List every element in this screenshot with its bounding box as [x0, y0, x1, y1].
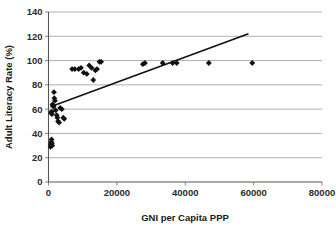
x-tick-label: 60000: [240, 187, 266, 198]
y-tick-label: 100: [27, 55, 43, 66]
x-tick-label: 40000: [172, 187, 198, 198]
y-tick-label: 20: [32, 152, 43, 163]
y-axis-title: Adult Literacy Rate (%): [3, 45, 14, 149]
x-axis-title: GNI per Capita PPP: [141, 212, 229, 223]
y-tick-label: 120: [27, 31, 43, 42]
scatter-chart: 020406080100120140 020000400006000080000…: [0, 0, 336, 227]
chart-canvas: 020406080100120140 020000400006000080000…: [0, 0, 336, 227]
x-tick-label: 20000: [104, 187, 130, 198]
y-tick-label: 0: [37, 176, 42, 187]
y-tick-label: 140: [27, 6, 43, 17]
y-tick-label: 60: [32, 104, 43, 115]
x-tick-label: 80000: [309, 187, 335, 198]
y-tick-label: 40: [32, 128, 43, 139]
y-tick-label: 80: [32, 79, 43, 90]
x-tick-label: 0: [46, 187, 51, 198]
